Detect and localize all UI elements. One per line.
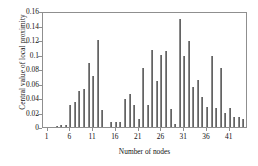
x-tick-mark (206, 128, 207, 131)
y-tick-label: 0.02 (13, 110, 39, 117)
bar (83, 89, 85, 127)
y-tick-mark (38, 27, 42, 28)
bar (170, 109, 172, 127)
bar (206, 107, 208, 127)
bar (192, 87, 194, 127)
bar (224, 113, 226, 127)
y-tick-mark (38, 128, 42, 129)
bar (115, 122, 117, 127)
x-tick-mark (47, 128, 48, 131)
bar (233, 117, 235, 127)
bar (65, 125, 67, 127)
bar (211, 56, 213, 127)
x-tick-label: 21 (128, 133, 148, 141)
x-axis-label: Number of nodes (42, 147, 247, 156)
x-tick-label: 26 (150, 133, 170, 141)
bar (124, 99, 126, 127)
y-tick-label: 0.16 (13, 8, 39, 15)
y-tick-mark (38, 70, 42, 71)
x-tick-label: 1 (37, 133, 57, 141)
y-tick-label: 0 (13, 124, 39, 131)
bar (220, 68, 222, 127)
x-tick-mark (115, 128, 116, 131)
y-axis-tick-labels: 0.160.140.120.10.080.060.040.020 (10, 0, 39, 166)
bar (201, 97, 203, 127)
x-tick-mark (138, 128, 139, 131)
y-tick-label: 0.08 (13, 66, 39, 73)
bar (156, 81, 158, 127)
bar (133, 105, 135, 127)
bar (183, 56, 185, 127)
bar (78, 91, 80, 127)
bar (238, 117, 240, 127)
bar (106, 127, 108, 128)
x-tick-label: 36 (196, 133, 216, 141)
x-tick-mark (229, 128, 230, 131)
bar (179, 19, 181, 127)
bar-chart-figure: Central value of local proximity 0.160.1… (0, 0, 258, 166)
y-tick-mark (38, 85, 42, 86)
bar (97, 40, 99, 127)
bar (165, 51, 167, 127)
bar (56, 126, 58, 127)
bar (242, 119, 244, 127)
bar (129, 94, 131, 127)
bar (74, 102, 76, 127)
y-tick-mark (38, 114, 42, 115)
x-tick-label: 11 (82, 133, 102, 141)
x-tick-label: 16 (105, 133, 125, 141)
y-tick-label: 0.04 (13, 95, 39, 102)
bar (160, 55, 162, 128)
bar (188, 41, 190, 127)
y-tick-label: 0.06 (13, 81, 39, 88)
bar (92, 76, 94, 127)
bar (142, 68, 144, 127)
bar (88, 63, 90, 127)
y-tick-mark (38, 41, 42, 42)
bar (215, 108, 217, 127)
bar (138, 119, 140, 127)
bar (197, 80, 199, 127)
bar-series (43, 13, 246, 127)
x-tick-label: 31 (173, 133, 193, 141)
bar (47, 127, 49, 128)
bar (60, 125, 62, 127)
x-tick-mark (69, 128, 70, 131)
y-tick-mark (38, 56, 42, 57)
bar (51, 127, 53, 128)
x-tick-label: 41 (219, 133, 239, 141)
bar (174, 124, 176, 127)
y-tick-label: 0.14 (13, 23, 39, 30)
bar (69, 105, 71, 127)
y-tick-mark (38, 99, 42, 100)
bar (229, 108, 231, 127)
bar (101, 110, 103, 127)
bar (110, 122, 112, 127)
y-tick-label: 0.12 (13, 37, 39, 44)
x-tick-mark (92, 128, 93, 131)
x-tick-mark (160, 128, 161, 131)
x-tick-mark (183, 128, 184, 131)
y-tick-mark (38, 12, 42, 13)
bar (151, 50, 153, 127)
bar (147, 105, 149, 127)
y-tick-label: 0.1 (13, 52, 39, 59)
plot-area (42, 12, 247, 128)
x-tick-label: 6 (59, 133, 79, 141)
bar (119, 122, 121, 127)
